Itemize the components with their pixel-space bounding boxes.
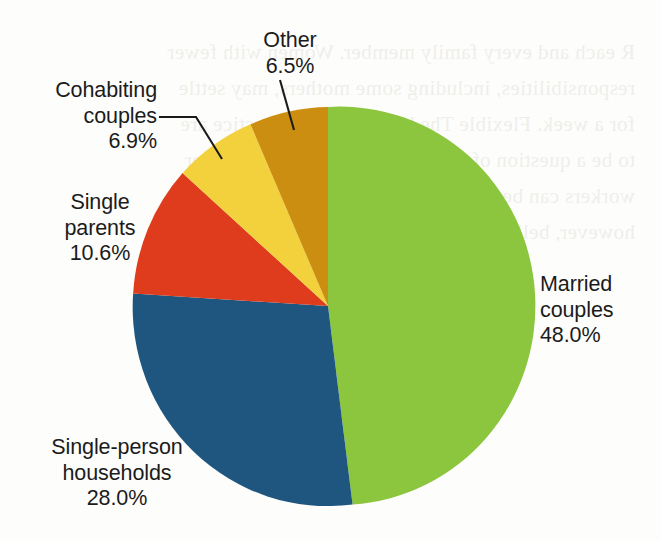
pie-label-cohabiting-couples: Cohabiting couples 6.9% <box>45 78 157 155</box>
pie-label-married-couples: Married couples 48.0% <box>540 272 655 349</box>
pie-chart-figure: R each and every family member. Women wi… <box>0 0 661 541</box>
pie-label-single-parents: Single parents 10.6% <box>44 190 156 267</box>
pie-label-single-person-households: Single-person households 28.0% <box>19 435 215 512</box>
pie-label-other: Other 6.5% <box>247 28 333 79</box>
pie-slice-married-couples[interactable] <box>328 107 535 505</box>
